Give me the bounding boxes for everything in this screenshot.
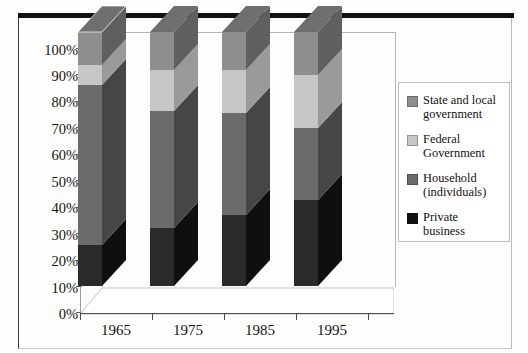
legend-item-private-business[interactable]: Private business (407, 210, 503, 238)
x-tick-label-1985: 1985 (230, 322, 290, 339)
legend-item-label: Federal Government (423, 132, 503, 160)
legend-swatch-icon (407, 135, 418, 146)
legend-item-state-local[interactable]: State and local government (407, 93, 503, 121)
x-tick-mark (80, 313, 81, 320)
legend-swatch-icon (407, 213, 418, 224)
legend-item-federal[interactable]: Federal Government (407, 132, 503, 160)
x-tick-mark (152, 313, 153, 320)
legend-item-label: Private business (423, 210, 503, 238)
legend-swatch-icon (407, 174, 418, 185)
x-tick-mark (368, 313, 369, 320)
x-axis-labels: 1965 1975 1985 1995 (22, 322, 394, 348)
legend-item-household[interactable]: Household (individuals) (407, 171, 503, 199)
x-axis-line (80, 313, 394, 314)
legend-item-label: State and local government (423, 93, 503, 121)
x-tick-label-1975: 1975 (158, 322, 218, 339)
x-tick-mark (296, 313, 297, 320)
chart-legend: State and local government Federal Gover… (398, 82, 510, 242)
plot-area: 100% 90% 80% 70% 60% 50% 40% 30% 20% 10%… (22, 22, 392, 332)
x-tick-mark (224, 313, 225, 320)
x-tick-label-1965: 1965 (86, 322, 146, 339)
x-tick-label-1995: 1995 (302, 322, 362, 339)
legend-swatch-icon (407, 96, 418, 107)
chart-figure: 100% 90% 80% 70% 60% 50% 40% 30% 20% 10%… (0, 0, 528, 353)
legend-item-label: Household (individuals) (423, 171, 503, 199)
